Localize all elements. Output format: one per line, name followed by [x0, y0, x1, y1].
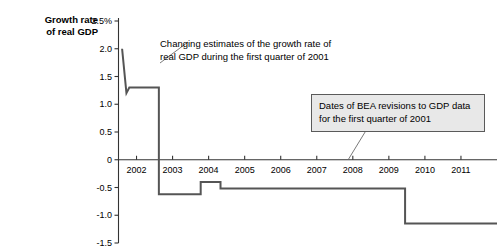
x-tick-label: 2002 [127, 165, 147, 175]
x-tick-label: 2004 [199, 165, 219, 175]
x-tick-label: 2010 [415, 165, 435, 175]
x-tick-label: 2005 [235, 165, 255, 175]
x-tick-label: 2007 [307, 165, 327, 175]
y-tick-label: 0 [70, 155, 112, 165]
y-tick-label: 1.0 [70, 99, 112, 109]
y-tick-label: 2.0 [70, 44, 112, 54]
y-tick-label: 2.5% [70, 16, 112, 26]
x-tick-label: 2008 [343, 165, 363, 175]
annotation-bea-revisions-text: Dates of BEA revisions to GDP data for t… [319, 100, 477, 125]
annotation-changing-estimates: Changing estimates of the growth rate of… [160, 38, 375, 63]
x-tick-label: 2003 [163, 165, 183, 175]
data-line-series-0 [122, 49, 497, 224]
x-tick-label: 2006 [271, 165, 291, 175]
y-tick-label: -0.5 [70, 183, 112, 193]
x-tick-label: 2009 [379, 165, 399, 175]
data-series-group [122, 49, 497, 224]
y-tick-label: 1.5 [70, 72, 112, 82]
annotation-bea-revisions-box: Dates of BEA revisions to GDP data for t… [311, 94, 485, 132]
y-tick-label: -1.0 [70, 210, 112, 220]
chart-container: Growth rate of real GDP 2.5%2.01.51.00.5… [0, 0, 503, 252]
y-tick-label: 0.5 [70, 127, 112, 137]
y-tick-label: -1.5 [70, 238, 112, 248]
x-tick-label: 2011 [451, 165, 470, 175]
